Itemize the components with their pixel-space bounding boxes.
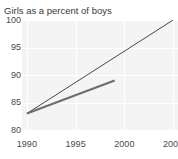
series-line-target-trend bbox=[27, 20, 173, 114]
y-tick-label: 95 bbox=[1, 43, 21, 52]
y-tick-label: 85 bbox=[1, 98, 21, 107]
y-tick-label: 100 bbox=[1, 16, 21, 25]
plot-area bbox=[22, 20, 178, 130]
x-tick-label: 1990 bbox=[7, 139, 47, 149]
clipped-text-above bbox=[4, 0, 124, 1]
x-tick-label: 1995 bbox=[56, 139, 96, 149]
x-tick-label: 2000 bbox=[104, 139, 144, 149]
chart-screenshot: Girls as a percent of boys 80859095100 1… bbox=[0, 0, 178, 159]
series-layer bbox=[22, 20, 178, 130]
x-axis-tick-labels: 1990199520002005 bbox=[0, 131, 178, 151]
y-tick-label: 90 bbox=[1, 71, 21, 80]
x-tick-label: 2005 bbox=[153, 139, 178, 149]
